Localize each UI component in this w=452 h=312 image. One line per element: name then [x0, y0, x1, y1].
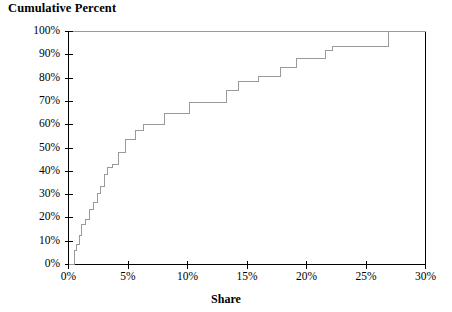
x-tick-label: 25%	[343, 270, 389, 282]
step-curve	[69, 32, 426, 265]
y-tick-label: 20%	[18, 210, 60, 222]
y-tick-label: 80%	[18, 71, 60, 83]
y-tick-label: 0%	[18, 257, 60, 269]
y-tick-label: 10%	[18, 234, 60, 246]
y-tick-label: 70%	[18, 94, 60, 106]
x-tick-label: 20%	[284, 270, 330, 282]
x-tick-label: 5%	[105, 270, 151, 282]
axis-lines	[69, 32, 426, 265]
y-tick-label: 60%	[18, 117, 60, 129]
y-tick-label: 50%	[18, 141, 60, 153]
cumulative-percent-chart: Cumulative Percent 0%10%20%30%40%50%60%7…	[0, 0, 452, 312]
y-tick-label: 30%	[18, 187, 60, 199]
tick-marks	[65, 32, 426, 269]
x-tick-label: 0%	[46, 270, 92, 282]
y-tick-label: 40%	[18, 164, 60, 176]
x-tick-label: 10%	[165, 270, 211, 282]
x-tick-label: 15%	[224, 270, 270, 282]
x-axis-title: Share	[0, 292, 452, 307]
plot-area	[0, 0, 452, 312]
y-tick-label: 100%	[18, 24, 60, 36]
x-tick-label: 30%	[403, 270, 449, 282]
y-tick-label: 90%	[18, 47, 60, 59]
